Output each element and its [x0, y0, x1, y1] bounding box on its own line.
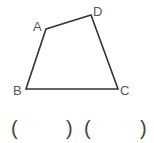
answer-blank-1-open: (: [11, 118, 18, 138]
answer-blank-2-open: (: [84, 118, 91, 138]
vertex-label-d: D: [93, 5, 102, 18]
vertex-label-b: B: [13, 84, 22, 97]
vertex-label-a: A: [33, 20, 42, 33]
quadrilateral-figure: [0, 0, 154, 143]
vertex-label-c: C: [120, 84, 129, 97]
answer-blank-1-close: ): [66, 118, 73, 138]
answer-blank-2-close: ): [140, 118, 147, 138]
